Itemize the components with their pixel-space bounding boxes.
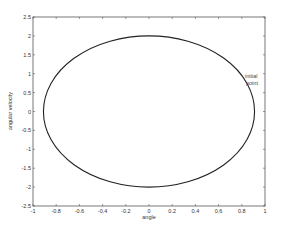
- y-tick-label: 1: [28, 71, 31, 77]
- x-tick-label: 0.8: [238, 208, 246, 214]
- y-axis-label: angular velocity: [7, 92, 13, 130]
- initial-point-annotation-line2: point: [246, 80, 258, 86]
- plot-frame: [33, 17, 265, 206]
- y-tick-label: 2: [28, 33, 31, 39]
- x-tick-label: 0.2: [168, 208, 176, 214]
- y-tick-label: 1.5: [23, 52, 31, 58]
- initial-point-annotation-line1: initial: [245, 73, 258, 79]
- x-tick-label: -0.4: [98, 208, 107, 214]
- y-tick-label: -0.5: [22, 127, 31, 133]
- y-tick-label: -2: [26, 184, 31, 190]
- x-tick-label: -0.6: [75, 208, 84, 214]
- y-tick-labels: -2.5-2-1.5-1-0.500.511.522.5: [22, 14, 31, 209]
- x-tick-label: 0.6: [215, 208, 223, 214]
- x-axis-label: angle: [142, 214, 155, 220]
- x-tick-label: 0.4: [192, 208, 200, 214]
- phase-plot: -1-0.8-0.6-0.4-0.200.20.40.60.81 -2.5-2-…: [0, 0, 281, 229]
- phase-trajectory-curve: [43, 36, 254, 187]
- x-tick-label: -0.2: [121, 208, 130, 214]
- x-tick-label: -1: [31, 208, 36, 214]
- x-tick-label: 1: [263, 208, 266, 214]
- x-tick-label: -0.8: [51, 208, 60, 214]
- y-tick-label: 2.5: [23, 14, 31, 20]
- y-tick-label: 0: [28, 109, 31, 115]
- axis-ticks: [33, 17, 265, 206]
- y-tick-label: -1: [26, 146, 31, 152]
- y-tick-label: 0.5: [23, 90, 31, 96]
- y-tick-label: -1.5: [22, 165, 31, 171]
- y-tick-label: -2.5: [22, 203, 31, 209]
